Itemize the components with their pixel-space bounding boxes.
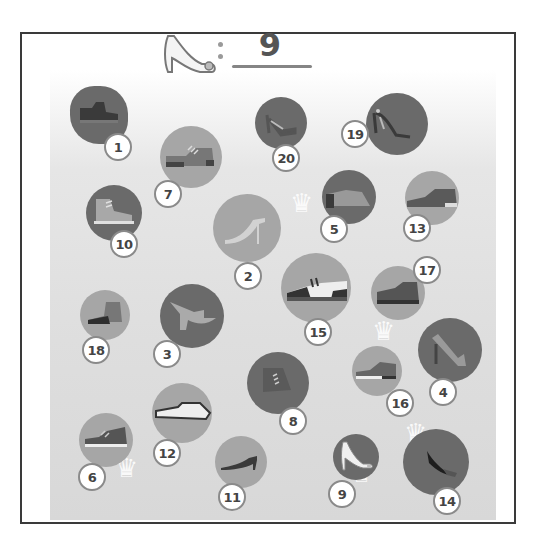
crown-decoration-icon: ♛ bbox=[372, 318, 395, 344]
shoe-item-20[interactable] bbox=[255, 97, 307, 149]
item-number-badge: 15 bbox=[304, 318, 332, 346]
item-number-badge: 9 bbox=[328, 480, 356, 508]
shoe-item-4[interactable] bbox=[418, 318, 482, 382]
count-underline bbox=[232, 65, 312, 68]
item-number-badge: 2 bbox=[234, 262, 262, 290]
strappy-heel-icon bbox=[366, 93, 428, 155]
high-heel-shoe-icon bbox=[333, 434, 379, 480]
crown-decoration-icon: ♛ bbox=[290, 190, 313, 216]
item-number-badge: 3 bbox=[153, 340, 181, 368]
shoe-item-15[interactable] bbox=[281, 253, 351, 323]
item-number-badge: 6 bbox=[78, 463, 106, 491]
item-number-badge: 20 bbox=[272, 144, 300, 172]
shoe-item-14[interactable] bbox=[403, 429, 469, 495]
item-number-badge: 17 bbox=[413, 256, 441, 284]
sneaker-icon bbox=[79, 413, 133, 467]
shoe-item-2[interactable] bbox=[213, 194, 281, 262]
item-number-badge: 12 bbox=[153, 439, 181, 467]
item-number-badge: 11 bbox=[218, 483, 246, 511]
item-number-badge: 4 bbox=[429, 378, 457, 406]
stiletto-heel-icon bbox=[213, 194, 281, 262]
shoe-item-6[interactable] bbox=[79, 413, 133, 467]
item-number-badge: 13 bbox=[403, 214, 431, 242]
item-number-badge: 5 bbox=[320, 215, 348, 243]
item-number-badge: 10 bbox=[110, 230, 138, 258]
saddle-shoe-icon bbox=[281, 253, 351, 323]
item-number-badge: 16 bbox=[386, 389, 414, 417]
pump-heel-icon bbox=[418, 318, 482, 382]
block-heel-mule-icon bbox=[160, 284, 224, 348]
ankle-boot-icon bbox=[247, 352, 309, 414]
loafer-icon bbox=[152, 383, 212, 443]
heel-sandal-icon bbox=[255, 97, 307, 149]
kitten-heel-icon bbox=[215, 436, 267, 488]
shoe-item-19[interactable] bbox=[366, 93, 428, 155]
shoe-item-9[interactable] bbox=[333, 434, 379, 480]
target-high-heel-icon bbox=[162, 32, 218, 78]
item-number-badge: 7 bbox=[154, 180, 182, 208]
item-number-badge: 1 bbox=[104, 133, 132, 161]
item-number-badge: 8 bbox=[279, 407, 307, 435]
target-count: 9 bbox=[250, 26, 290, 64]
item-number-badge: 18 bbox=[82, 336, 110, 364]
item-number-badge: 19 bbox=[341, 120, 369, 148]
shoe-item-3[interactable] bbox=[160, 284, 224, 348]
shoe-item-11[interactable] bbox=[215, 436, 267, 488]
high-top-boot-icon bbox=[80, 290, 130, 340]
shoe-item-8[interactable] bbox=[247, 352, 309, 414]
shoe-item-18[interactable] bbox=[80, 290, 130, 340]
slipper-heel-icon bbox=[403, 429, 469, 495]
shoe-item-16[interactable] bbox=[352, 346, 402, 396]
shoe-item-12[interactable] bbox=[152, 383, 212, 443]
shoe-item-7[interactable] bbox=[160, 126, 222, 188]
header-separator bbox=[218, 42, 224, 64]
running-shoe-icon bbox=[352, 346, 402, 396]
item-number-badge: 14 bbox=[433, 487, 461, 515]
oxford-shoe-icon bbox=[160, 126, 222, 188]
